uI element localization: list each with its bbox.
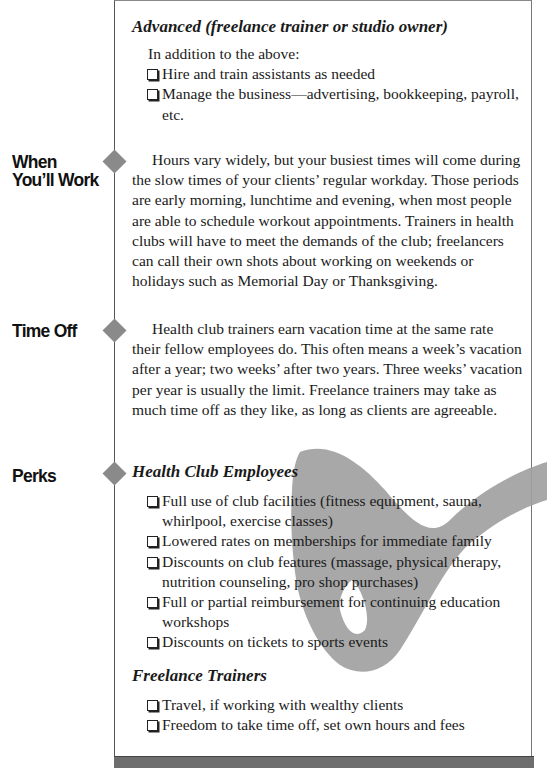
advanced-section: Advanced (freelance trainer or studio ow…: [132, 16, 524, 125]
advanced-heading: Advanced (freelance trainer or studio ow…: [132, 16, 524, 38]
time-off-body: Health club trainers earn vacation time …: [132, 319, 524, 420]
list-item: Hire and train assistants as needed: [147, 64, 524, 84]
advanced-intro: In addition to the above:: [132, 44, 524, 64]
checkbox-icon: [147, 496, 158, 507]
checkbox-icon: [147, 536, 158, 547]
list-item: Full use of club facilities (fitness equ…: [147, 491, 524, 531]
time-off-section: Health club trainers earn vacation time …: [132, 319, 524, 420]
list-item: Lowered rates on memberships for immedia…: [147, 531, 524, 551]
checkbox-icon: [147, 700, 158, 711]
section-label-time-off: Time Off: [12, 322, 77, 340]
list-item: Discounts on tickets to sports events: [147, 632, 524, 652]
advanced-list: Hire and train assistants as needed Mana…: [132, 64, 524, 125]
list-item: Freedom to take time off, set own hours …: [147, 715, 524, 735]
perks-section: Health Club Employees Full use of club f…: [132, 461, 524, 735]
list-item: Manage the business—advertising, bookkee…: [147, 84, 524, 124]
when-body: Hours vary widely, but your busiest time…: [132, 150, 524, 291]
checkbox-icon: [147, 89, 158, 100]
section-label-perks: Perks: [12, 467, 56, 485]
health-club-list: Full use of club facilities (fitness equ…: [132, 491, 524, 653]
page-bottom-bar: [114, 756, 534, 768]
checkbox-icon: [147, 637, 158, 648]
list-item: Travel, if working with wealthy clients: [147, 695, 524, 715]
list-item: Discounts on club features (massage, phy…: [147, 552, 524, 592]
freelance-list: Travel, if working with wealthy clients …: [132, 695, 524, 735]
list-item: Full or partial reimbursement for contin…: [147, 592, 524, 632]
freelance-heading: Freelance Trainers: [132, 665, 524, 687]
health-club-heading: Health Club Employees: [132, 461, 524, 483]
checkbox-icon: [147, 597, 158, 608]
section-label-when: When You’ll Work: [12, 153, 98, 189]
when-section: Hours vary widely, but your busiest time…: [132, 150, 524, 291]
checkbox-icon: [147, 69, 158, 80]
checkbox-icon: [147, 720, 158, 731]
checkbox-icon: [147, 557, 158, 568]
